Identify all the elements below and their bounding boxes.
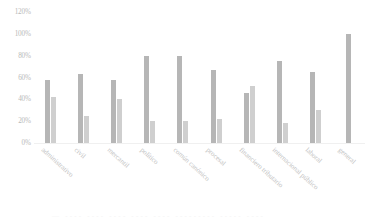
y-axis: 120%100%80%60%40%20%0% <box>0 0 34 150</box>
x-axis-tick-label: laboral <box>304 146 324 165</box>
bar-group <box>34 12 67 143</box>
bar <box>150 121 155 143</box>
bar <box>250 86 255 143</box>
bar <box>211 70 216 143</box>
bar <box>84 116 89 143</box>
x-axis-tick-labels: administrativocivilmercantilpolíticocomú… <box>34 144 365 214</box>
y-axis-tick-label: 100% <box>15 30 31 38</box>
y-axis-tick-label: 20% <box>18 117 31 125</box>
bar <box>144 56 149 143</box>
bar-group <box>166 12 199 143</box>
bar-group <box>133 12 166 143</box>
bar-group <box>233 12 266 143</box>
bar <box>244 93 249 143</box>
bar <box>111 80 116 143</box>
bar-group <box>332 12 365 143</box>
bar <box>117 99 122 143</box>
bar <box>217 119 222 143</box>
x-axis-tick-label: procesal <box>205 146 228 167</box>
x-axis-tick-label: político <box>138 146 159 166</box>
bar <box>316 110 321 143</box>
bar <box>45 80 50 143</box>
x-axis-tick-label: administrativo <box>39 146 74 179</box>
y-axis-tick-label: 0% <box>22 139 31 147</box>
bar-group <box>100 12 133 143</box>
footer-cutoff-text: — ---- ---- ---- ---- ---- --------- ---… <box>52 213 265 220</box>
y-axis-tick-label: 80% <box>18 52 31 60</box>
bar <box>78 74 83 143</box>
bar <box>177 56 182 143</box>
bar-group <box>67 12 100 143</box>
bar <box>346 34 351 143</box>
bar-group <box>299 12 332 143</box>
footer-strip: — ---- ---- ---- ---- ---- --------- ---… <box>0 213 367 221</box>
bar-chart: 120%100%80%60%40%20%0% administrativociv… <box>0 0 367 221</box>
bar-group <box>200 12 233 143</box>
bar-group <box>266 12 299 143</box>
x-axis-tick-label: civil <box>72 146 87 160</box>
y-axis-tick-label: 120% <box>15 8 31 16</box>
y-axis-tick-label: 60% <box>18 74 31 82</box>
x-axis-tick-label: mercantil <box>105 146 130 170</box>
bar <box>51 97 56 143</box>
bar <box>310 72 315 143</box>
plot-area <box>34 12 365 143</box>
y-axis-tick-label: 40% <box>18 95 31 103</box>
bar <box>277 61 282 143</box>
x-axis-tick-label: general <box>337 146 358 166</box>
bar <box>183 121 188 143</box>
bar <box>283 123 288 143</box>
